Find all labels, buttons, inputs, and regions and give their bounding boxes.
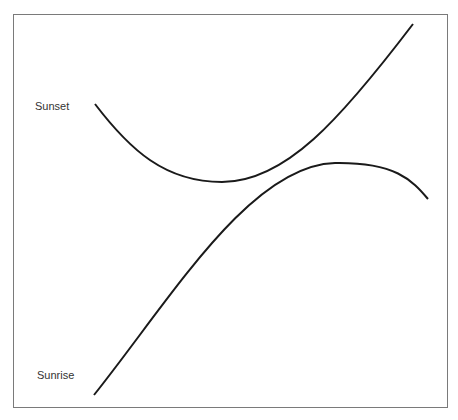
sunrise-curve bbox=[94, 163, 428, 395]
plot-area bbox=[0, 0, 458, 420]
sunset-label: Sunset bbox=[35, 100, 69, 112]
sunset-curve bbox=[95, 24, 413, 182]
sunrise-label: Sunrise bbox=[37, 369, 74, 381]
